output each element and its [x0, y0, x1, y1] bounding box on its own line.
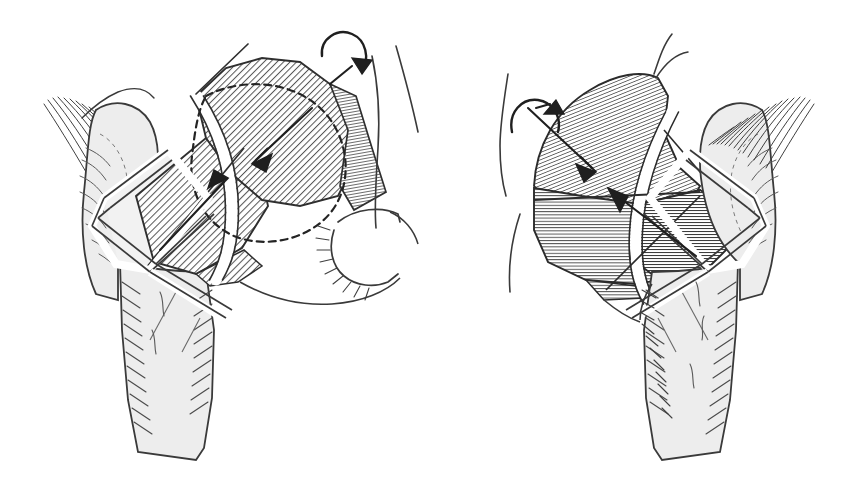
femoral-osteotomy-illustration [0, 0, 858, 494]
femoral-shaft-right [644, 262, 738, 460]
femoral-shaft-left [120, 262, 214, 460]
figure-root [0, 0, 858, 494]
